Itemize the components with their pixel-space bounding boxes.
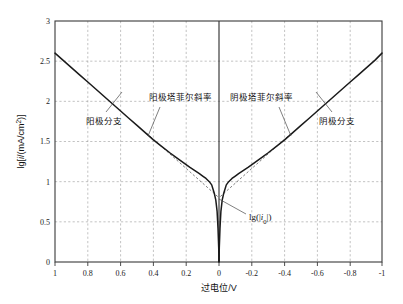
xtick-5: 0 bbox=[217, 269, 221, 278]
xtick-6: -0.2 bbox=[245, 269, 258, 278]
xtick-8: -0.6 bbox=[311, 269, 324, 278]
ytick-4: 2 bbox=[46, 97, 50, 106]
xtick-0: 1 bbox=[53, 269, 57, 278]
ytick-1: 0.5 bbox=[40, 218, 50, 227]
ytick-3: 1.5 bbox=[40, 137, 50, 146]
ytick-5: 2.5 bbox=[40, 57, 50, 66]
y-axis-title-pre: lg[ bbox=[16, 159, 26, 169]
xtick-10: -1 bbox=[379, 269, 386, 278]
ytick-2: 1 bbox=[46, 178, 50, 187]
x-axis-title: 过电位/V bbox=[201, 282, 237, 293]
xtick-2: 0.6 bbox=[116, 269, 126, 278]
annotation-cathodic-tafel-slope: 阴极塔菲尔斜率 bbox=[230, 92, 293, 102]
ytick-0: 0 bbox=[46, 258, 50, 267]
annotation-anodic-branch: 阳极分支 bbox=[86, 116, 122, 126]
xtick-4: 0.2 bbox=[181, 269, 191, 278]
ytick-6: 3 bbox=[46, 17, 50, 26]
y-axis-title-mid: /(mA/cm bbox=[16, 124, 26, 158]
xtick-3: 0.4 bbox=[148, 269, 158, 278]
xtick-9: -0.8 bbox=[344, 269, 357, 278]
annotation-cathodic-branch: 阴极分支 bbox=[319, 116, 355, 126]
xtick-7: -0.4 bbox=[278, 269, 291, 278]
figure-background bbox=[0, 0, 403, 304]
chart-svg: 1 0.8 0.6 0.4 0.2 0 -0.2 -0.4 -0.6 -0.8 … bbox=[0, 0, 403, 304]
y-axis-title-post: )] bbox=[16, 114, 26, 120]
tafel-plot-figure: 1 0.8 0.6 0.4 0.2 0 -0.2 -0.4 -0.6 -0.8 … bbox=[0, 0, 403, 304]
annotation-anodic-tafel-slope: 阳极塔菲尔斜率 bbox=[149, 92, 212, 102]
xtick-1: 0.8 bbox=[83, 269, 93, 278]
